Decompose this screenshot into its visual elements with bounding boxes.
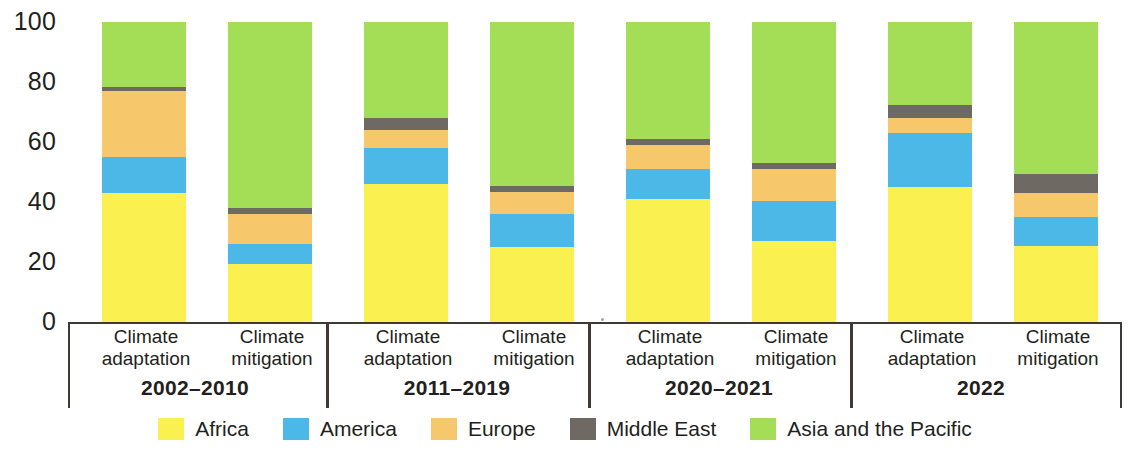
period-label: 2020–2021: [594, 376, 844, 400]
bar-segment-america[interactable]: [626, 169, 710, 199]
x-axis-label-line2: mitigation: [735, 348, 857, 370]
bar-segment-asia-and-the-pacific[interactable]: [752, 22, 836, 163]
x-axis-label-adaptation: Climateadaptation: [871, 326, 993, 370]
stacked-bar-mitigation[interactable]: [1014, 22, 1098, 322]
bar-segment-africa[interactable]: [1014, 246, 1098, 323]
x-axis-label-line1: Climate: [473, 326, 595, 348]
legend-label: America: [320, 418, 397, 440]
legend-swatch-icon: [431, 418, 457, 440]
legend-item-middle-east[interactable]: Middle East: [570, 418, 717, 440]
bar-segment-america[interactable]: [364, 148, 448, 184]
x-axis-label-mitigation: Climatemitigation: [997, 326, 1119, 370]
bar-segment-europe[interactable]: [490, 192, 574, 215]
y-axis-tick-40: 40: [0, 189, 56, 214]
bar-segment-america[interactable]: [228, 244, 312, 264]
bar-segment-africa[interactable]: [626, 199, 710, 322]
bar-segment-europe[interactable]: [228, 214, 312, 244]
legend-item-africa[interactable]: Africa: [158, 418, 249, 440]
subcategory-labels: ClimateadaptationClimatemitigation: [332, 326, 582, 374]
legend-item-europe[interactable]: Europe: [431, 418, 536, 440]
bar-segment-asia-and-the-pacific[interactable]: [490, 22, 574, 186]
bar-segment-asia-and-the-pacific[interactable]: [228, 22, 312, 208]
bar-segment-europe[interactable]: [102, 91, 186, 157]
x-axis-label-line2: adaptation: [609, 348, 731, 370]
bar-segment-europe[interactable]: [888, 118, 972, 133]
stacked-bar-mitigation[interactable]: [752, 22, 836, 322]
bar-segment-asia-and-the-pacific[interactable]: [102, 22, 186, 87]
bar-segment-africa[interactable]: [364, 184, 448, 322]
stacked-bar-mitigation[interactable]: [490, 22, 574, 322]
bar-segment-europe[interactable]: [364, 130, 448, 148]
bar-group-2020-2021: [592, 22, 842, 322]
legend-label: Africa: [195, 418, 249, 440]
x-axis-label-adaptation: Climateadaptation: [347, 326, 469, 370]
bar-group-2011-2019: [330, 22, 580, 322]
bar-segment-america[interactable]: [752, 201, 836, 242]
period-label: 2002–2010: [70, 376, 320, 400]
category-divider: [326, 324, 329, 408]
x-axis-label-line2: mitigation: [997, 348, 1119, 370]
bar-segment-africa[interactable]: [490, 247, 574, 322]
legend-label: Asia and the Pacific: [787, 418, 971, 440]
stacked-bar-adaptation[interactable]: [102, 22, 186, 322]
bar-segment-middle-east[interactable]: [1014, 174, 1098, 194]
x-axis-label-mitigation: Climatemitigation: [473, 326, 595, 370]
legend-label: Europe: [468, 418, 536, 440]
category-divider: [588, 324, 591, 408]
legend-item-america[interactable]: America: [283, 418, 397, 440]
bar-group-2002-2010: [68, 22, 318, 322]
period-label: 2011–2019: [332, 376, 582, 400]
bar-segment-africa[interactable]: [752, 241, 836, 322]
stacked-bar-adaptation[interactable]: [888, 22, 972, 322]
category-divider: [850, 324, 853, 408]
bar-group-2022: [854, 22, 1104, 322]
x-axis-label-line2: mitigation: [211, 348, 333, 370]
bar-segment-asia-and-the-pacific[interactable]: [626, 22, 710, 139]
bar-segment-africa[interactable]: [888, 187, 972, 322]
y-axis-tick-100: 100: [0, 9, 56, 34]
period-label: 2022: [856, 376, 1106, 400]
bar-segment-africa[interactable]: [228, 264, 312, 323]
subcategory-labels: ClimateadaptationClimatemitigation: [70, 326, 320, 374]
bar-segment-europe[interactable]: [626, 145, 710, 169]
stacked-bar-adaptation[interactable]: [626, 22, 710, 322]
x-axis-label-mitigation: Climatemitigation: [735, 326, 857, 370]
category-group-2002-2010: ClimateadaptationClimatemitigation2002–2…: [70, 324, 320, 408]
stacked-bar-chart: 100806040200 ClimateadaptationClimatemit…: [0, 0, 1130, 453]
y-axis-tick-0: 0: [0, 309, 56, 334]
bar-segment-asia-and-the-pacific[interactable]: [888, 22, 972, 105]
category-axis-band: ClimateadaptationClimatemitigation2002–2…: [68, 322, 1122, 408]
subcategory-labels: ClimateadaptationClimatemitigation: [856, 326, 1106, 374]
x-axis-label-line1: Climate: [85, 326, 207, 348]
x-axis-label-line1: Climate: [871, 326, 993, 348]
legend-swatch-icon: [750, 418, 776, 440]
bar-segment-middle-east[interactable]: [888, 105, 972, 119]
stacked-bar-mitigation[interactable]: [228, 22, 312, 322]
bar-segment-europe[interactable]: [1014, 193, 1098, 217]
x-axis-label-line1: Climate: [347, 326, 469, 348]
legend-item-asia-and-the-pacific[interactable]: Asia and the Pacific: [750, 418, 971, 440]
category-group-2011-2019: ClimateadaptationClimatemitigation2011–2…: [332, 324, 582, 408]
y-axis-tick-60: 60: [0, 129, 56, 154]
legend-swatch-icon: [158, 418, 184, 440]
plot-area: [68, 22, 1118, 322]
bar-segment-middle-east[interactable]: [364, 118, 448, 130]
stacked-bar-adaptation[interactable]: [364, 22, 448, 322]
bar-segment-america[interactable]: [490, 214, 574, 247]
bar-segment-asia-and-the-pacific[interactable]: [364, 22, 448, 118]
y-axis: 100806040200: [0, 0, 56, 453]
bar-segment-america[interactable]: [1014, 217, 1098, 246]
bar-segment-europe[interactable]: [752, 169, 836, 201]
x-axis-label-adaptation: Climateadaptation: [609, 326, 731, 370]
bar-segment-africa[interactable]: [102, 193, 186, 322]
legend: AfricaAmericaEuropeMiddle EastAsia and t…: [0, 418, 1130, 440]
x-axis-label-mitigation: Climatemitigation: [211, 326, 333, 370]
bar-segment-america[interactable]: [102, 157, 186, 193]
x-axis-label-line2: mitigation: [473, 348, 595, 370]
x-axis-label-line1: Climate: [997, 326, 1119, 348]
y-axis-tick-20: 20: [0, 249, 56, 274]
bar-segment-america[interactable]: [888, 133, 972, 187]
bar-segment-asia-and-the-pacific[interactable]: [1014, 22, 1098, 174]
legend-swatch-icon: [570, 418, 596, 440]
legend-label: Middle East: [607, 418, 717, 440]
